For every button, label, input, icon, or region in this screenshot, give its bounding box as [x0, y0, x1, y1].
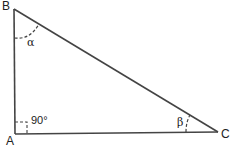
triangle-diagram: [0, 0, 232, 149]
side-ac: [15, 132, 218, 134]
angle-label-right: 90°: [31, 115, 48, 126]
beta-arc: [186, 115, 190, 132]
vertex-label-c: C: [221, 128, 230, 140]
vertex-label-b: B: [2, 0, 10, 12]
angle-label-alpha: α: [27, 37, 34, 48]
angle-label-beta: β: [177, 117, 183, 128]
right-angle-marker: [15, 122, 27, 134]
vertex-label-a: A: [6, 135, 14, 147]
side-ab: [14, 9, 15, 134]
